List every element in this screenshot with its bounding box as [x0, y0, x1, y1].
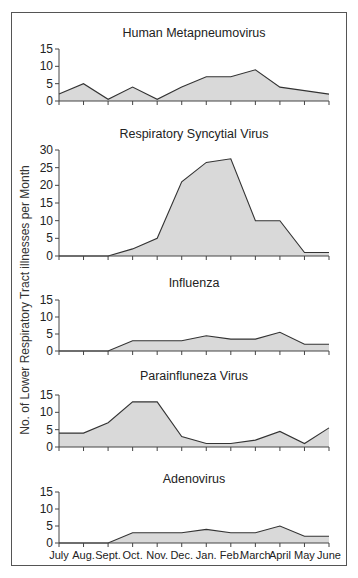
y-tick-label: 10 — [40, 310, 54, 324]
x-tick-label: Oct. — [123, 549, 143, 561]
y-tick-label: 10 — [40, 59, 54, 73]
area-fill — [59, 159, 329, 256]
y-tick-label: 15 — [40, 485, 54, 499]
x-tick-label: April — [269, 549, 291, 561]
panel-adenovirus: Adenovirus 051015JulyAug.Sept.Oct.Nov.De… — [40, 472, 341, 561]
x-tick-label: Aug. — [72, 549, 95, 561]
y-tick-label: 0 — [46, 536, 53, 550]
y-tick-label: 5 — [46, 77, 53, 91]
y-tick-label: 25 — [40, 161, 54, 175]
x-tick-label: Dec. — [170, 549, 193, 561]
x-tick-label: July — [49, 549, 69, 561]
y-tick-label: 0 — [46, 344, 53, 358]
panel-title: Adenovirus — [163, 472, 226, 486]
x-tick-label: Jan. — [196, 549, 217, 561]
area-fill — [59, 526, 329, 543]
y-tick-label: 30 — [40, 143, 54, 157]
x-tick-label: May — [294, 549, 315, 561]
area-fill — [59, 332, 329, 351]
y-tick-label: 5 — [46, 423, 53, 437]
y-tick-label: 10 — [40, 214, 54, 228]
y-tick-label: 15 — [40, 42, 54, 56]
panel-title: Influenza — [169, 276, 220, 290]
x-tick-label: March — [240, 549, 271, 561]
panel-title: Respiratory Syncytial Virus — [119, 127, 268, 141]
panel-title: Parainfluneza Virus — [140, 369, 248, 383]
y-tick-label: 10 — [40, 502, 54, 516]
y-tick-label: 15 — [40, 388, 54, 402]
y-tick-label: 15 — [40, 293, 54, 307]
x-tick-label: Nov. — [146, 549, 168, 561]
y-tick-label: 5 — [46, 327, 53, 341]
x-tick-label: June — [317, 549, 341, 561]
y-tick-label: 5 — [46, 231, 53, 245]
y-tick-label: 15 — [40, 196, 54, 210]
chart-area: Human Metapneumovirus 051015 Respiratory… — [0, 0, 358, 578]
panel-title: Human Metapneumovirus — [122, 26, 265, 40]
y-tick-label: 0 — [46, 249, 53, 263]
area-fill — [59, 70, 329, 101]
panel-influenza: Influenza 051015 — [40, 276, 329, 358]
y-tick-label: 10 — [40, 405, 54, 419]
y-tick-label: 0 — [46, 94, 53, 108]
panel-human-metapneumovirus: Human Metapneumovirus 051015 — [40, 26, 329, 108]
x-tick-label: Sept. — [95, 549, 121, 561]
y-tick-label: 5 — [46, 519, 53, 533]
y-tick-label: 0 — [46, 440, 53, 454]
x-tick-label: Feb. — [220, 549, 242, 561]
panel-parainfluenza-virus: Parainfluneza Virus 051015 — [40, 369, 329, 454]
panel-respiratory-syncytial-virus: Respiratory Syncytial Virus 051015202530 — [40, 127, 329, 263]
y-tick-label: 20 — [40, 178, 54, 192]
